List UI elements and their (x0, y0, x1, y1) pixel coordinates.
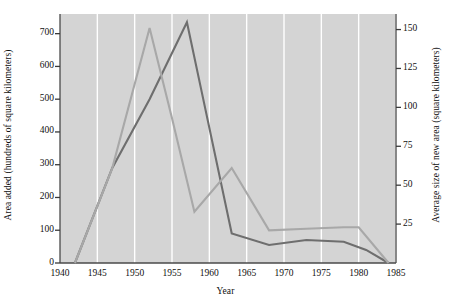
x-axis-tick-label: 1955 (152, 268, 192, 278)
y-axis-right-tick-label: 25 (403, 218, 431, 228)
y-axis-left-tick-label: 0 (20, 257, 54, 267)
plot-area (60, 14, 396, 263)
y-axis-left-tick-label: 200 (20, 191, 54, 201)
y-axis-left-tick-label: 600 (20, 60, 54, 70)
x-axis-tick-label: 1965 (227, 268, 267, 278)
x-axis-tick-label: 1950 (115, 268, 155, 278)
y-axis-left-tick-label: 700 (20, 27, 54, 37)
plot-background (60, 14, 396, 263)
x-axis-tick-label: 1960 (189, 268, 229, 278)
x-axis-tick-label: 1980 (339, 268, 379, 278)
dual-axis-line-chart: Area added (hundreds of square kilometer… (0, 0, 451, 304)
x-axis-tick-label: 1985 (376, 268, 416, 278)
y-axis-right-tick-label: 100 (403, 101, 431, 111)
y-axis-right-tick-label: 125 (403, 62, 431, 72)
x-axis-tick-label: 1975 (301, 268, 341, 278)
y-axis-left-tick-label: 400 (20, 125, 54, 135)
y-axis-right-tick-label: 75 (403, 140, 431, 150)
y-axis-right-tick-label: 150 (403, 23, 431, 33)
y-axis-right-tick-label: 50 (403, 179, 431, 189)
x-axis-tick-label: 1940 (40, 268, 80, 278)
y-axis-left-tick-label: 300 (20, 158, 54, 168)
y-axis-left-tick-label: 100 (20, 224, 54, 234)
y-axis-left-tick-label: 500 (20, 93, 54, 103)
x-axis-tick-label: 1970 (264, 268, 304, 278)
plot-canvas (0, 0, 451, 304)
x-axis-tick-label: 1945 (77, 268, 117, 278)
